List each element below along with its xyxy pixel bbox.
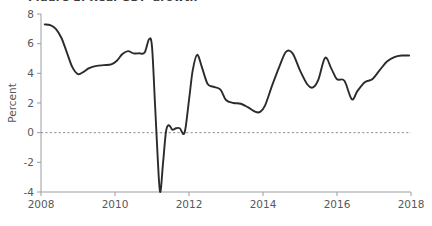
x-tick-label: 2018 <box>398 198 425 210</box>
x-axis: 200820102012201420162018 <box>28 192 425 210</box>
gdp-growth-line <box>45 24 409 192</box>
x-tick-label: 2008 <box>28 198 55 210</box>
figure-title-cropped: Figure 1. Real GDP growth <box>28 0 197 1</box>
y-axis-title: Percent <box>6 83 18 123</box>
y-axis: -4-202468 Percent <box>6 8 41 198</box>
chart-figure: Figure 1. Real GDP growth -4-202468 Perc… <box>0 0 432 226</box>
y-axis-tick-labels: -4-202468 <box>24 8 35 198</box>
y-axis-ticks <box>37 14 41 192</box>
y-tick-label: 6 <box>27 37 34 49</box>
y-tick-label: 0 <box>27 126 34 138</box>
x-axis-tick-labels: 200820102012201420162018 <box>28 198 425 210</box>
y-tick-label: 8 <box>27 8 34 20</box>
x-tick-label: 2012 <box>176 198 203 210</box>
y-tick-label: 4 <box>27 67 34 79</box>
x-tick-label: 2010 <box>102 198 129 210</box>
y-tick-label: -2 <box>24 156 34 168</box>
y-tick-label: -4 <box>24 186 35 198</box>
x-tick-label: 2014 <box>250 198 277 210</box>
x-tick-label: 2016 <box>324 198 351 210</box>
y-tick-label: 2 <box>27 97 34 109</box>
line-chart-canvas: -4-202468 Percent 2008201020122014201620… <box>0 0 432 226</box>
x-axis-ticks <box>41 192 411 196</box>
